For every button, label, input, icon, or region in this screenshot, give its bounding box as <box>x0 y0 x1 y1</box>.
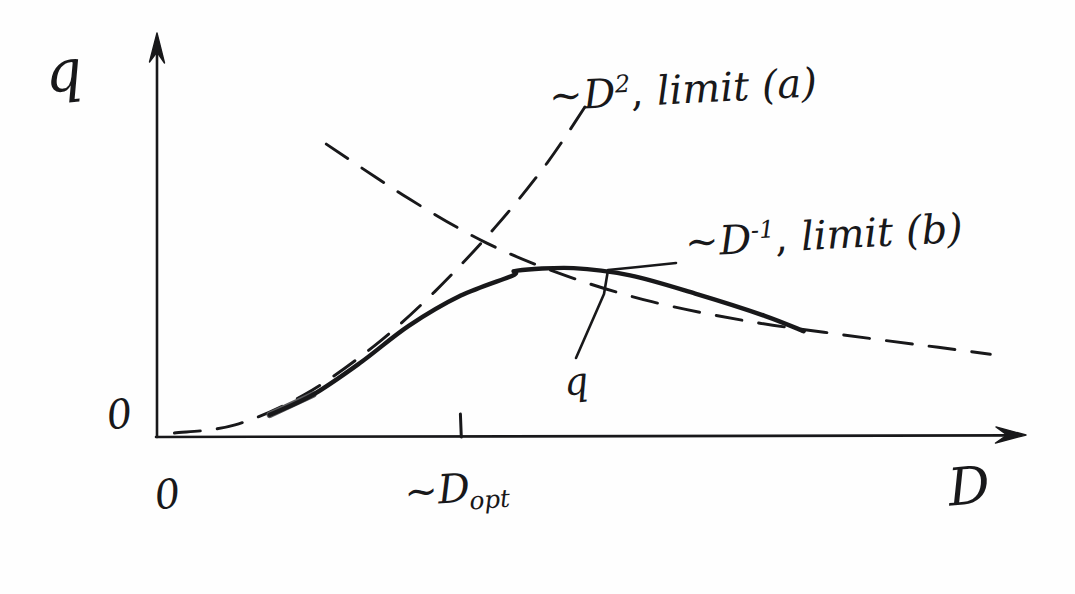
tilde-glyph-b: ~ <box>684 218 720 266</box>
x-tick-label-dopt-base: ~D <box>403 464 472 514</box>
annotation-limit-b-comma: , <box>774 214 790 261</box>
x-axis-tick-dopt <box>460 414 461 437</box>
q-curve-label: q <box>562 361 590 401</box>
origin-label-y: 0 <box>104 392 135 435</box>
annotation-limit-b-text: limit (b) <box>800 205 964 259</box>
q-curve <box>270 268 804 415</box>
y-axis <box>150 33 165 437</box>
x-axis-label: D <box>946 458 992 513</box>
annotation-limit-b-exponent: -1 <box>750 215 775 244</box>
figure-canvas: q D 0 0 ~Dopt ~D2, limit (a) ~D-1, limit… <box>0 0 1075 594</box>
annotation-limit-a-base: D <box>582 70 616 118</box>
annotation-limit-a-text: limit (a) <box>656 59 818 113</box>
annotation-limit-b-base: D <box>718 216 752 264</box>
annotation-limit-a-exponent: 2 <box>614 70 631 99</box>
x-tick-label-dopt-subscript: opt <box>468 484 511 516</box>
y-axis-label: q <box>42 40 85 102</box>
x-tick-label-dopt: ~Dopt <box>403 465 512 512</box>
asymptote-curve-d-squared <box>174 98 591 433</box>
leader-line-q-to-limit-b <box>576 263 676 358</box>
x-axis <box>156 427 1026 443</box>
origin-label-x: 0 <box>152 472 183 515</box>
annotation-limit-a-comma: , <box>629 68 645 115</box>
tilde-glyph-a: ~ <box>548 72 584 120</box>
